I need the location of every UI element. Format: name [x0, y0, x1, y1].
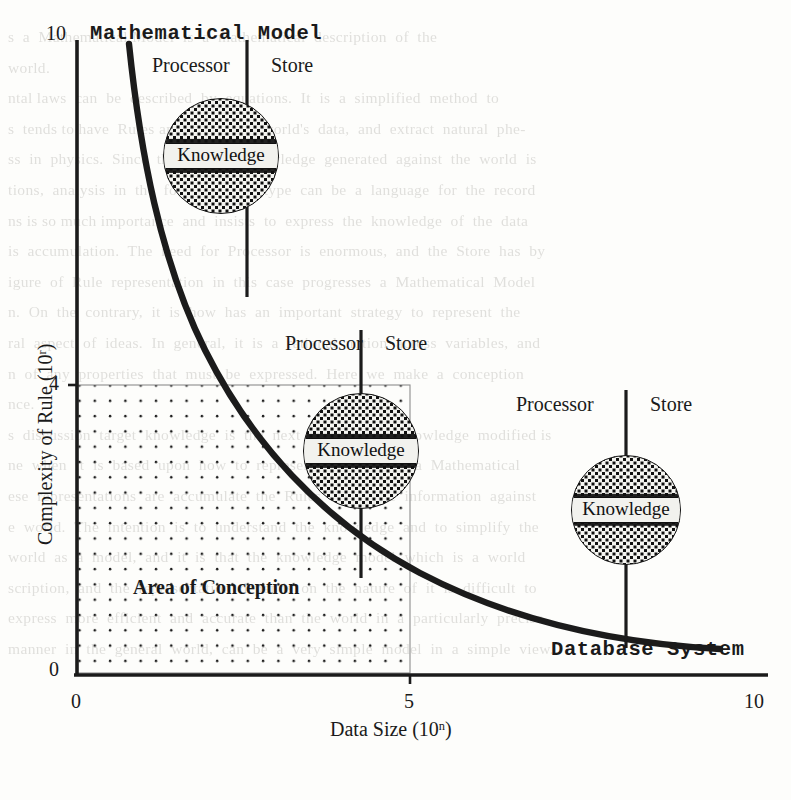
y-axis-title-prefix: Complexity of Rule (10 [34, 354, 56, 545]
x-axis-title: Data Size (10n) [330, 718, 452, 741]
system-3-store-label: Store [650, 393, 692, 416]
system-3-knowledge-label: Knowledge [572, 497, 680, 523]
system-mathematical-model-title: Mathematical Model [90, 22, 322, 45]
system-database-system-title: Database System [551, 638, 745, 661]
system-2-processor-label: Processor [285, 332, 363, 355]
system-3-processor-label: Processor [516, 393, 594, 416]
system-1-store-label: Store [271, 54, 313, 77]
system-1-processor-label: Processor [152, 54, 230, 77]
system-1-knowledge-label: Knowledge [164, 143, 278, 169]
system-2-store-label: Store [385, 332, 427, 355]
x-axis-title-suffix: ) [445, 718, 452, 740]
y-axis-title-suffix: ) [34, 344, 56, 351]
figure-stage: 10 4 0 0 5 10 Data Size (10n) Complexity… [0, 0, 791, 800]
y-axis-title-exponent: r [35, 350, 49, 354]
y-tick-label-0: 0 [49, 658, 59, 681]
area-of-conception-label: Area of Conception [133, 576, 299, 599]
system-1-knowledge-bubble: Knowledge [163, 98, 279, 214]
x-axis-title-prefix: Data Size (10 [330, 718, 439, 740]
system-3-knowledge-bubble: Knowledge [571, 455, 681, 565]
x-tick-label-0: 0 [71, 690, 81, 713]
y-tick-label-10: 10 [46, 22, 66, 45]
x-tick-label-5: 5 [404, 690, 414, 713]
y-axis-title: Complexity of Rule (10r) [34, 344, 57, 545]
x-tick-label-10: 10 [744, 690, 764, 713]
system-2-knowledge-label: Knowledge [304, 438, 418, 464]
system-2-knowledge-bubble: Knowledge [303, 393, 419, 509]
